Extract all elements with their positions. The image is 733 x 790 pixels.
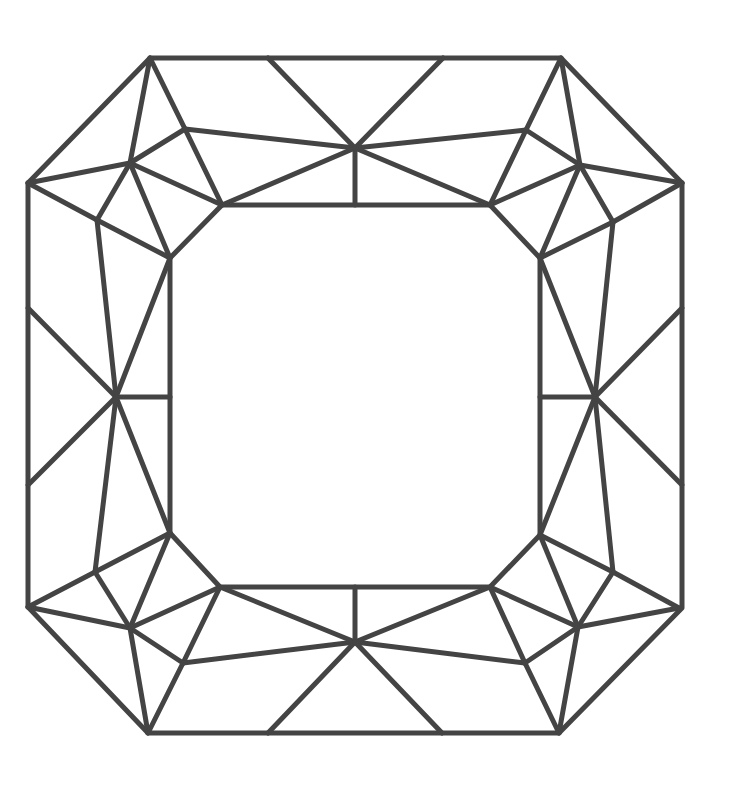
facet-edge [28,397,116,485]
facet-edge [28,308,116,397]
facet-edge [355,130,526,148]
facet-edge [183,642,355,663]
facet-edge [613,572,679,608]
gemstone-facet-diagram [0,0,733,790]
facet-edge [595,222,613,397]
facet-edge [355,587,490,642]
facet-edge [525,663,559,733]
facet-edge [595,397,682,485]
facet-edge [97,220,116,397]
facet-edge [268,58,355,148]
facet-edge [355,642,442,733]
facet-edge [148,663,183,733]
facet-edge [130,628,183,663]
facet-edge [97,163,130,220]
facet-edge [355,148,490,205]
facet-edge [580,165,613,222]
facet-edge [355,58,443,148]
facet-edge [222,148,355,205]
facet-edge [150,58,185,129]
facet-edge [595,397,613,572]
facet-edge [116,258,170,397]
facet-edge [578,572,613,627]
facet-edge [220,587,355,642]
facet-edge [595,308,682,397]
facet-edges [28,58,682,733]
facet-edge [613,183,682,222]
facet-edge [130,129,185,163]
facet-edge [540,397,595,535]
facet-edge [526,130,580,165]
facet-edge [28,183,97,220]
facet-edge [183,587,220,663]
facet-edge [185,129,355,148]
facet-edge [95,397,116,572]
facet-edge [355,642,525,663]
gem-table [170,205,540,587]
facet-edge [540,258,595,397]
facet-edge [116,397,170,533]
facet-edge [268,642,355,733]
facet-edge [526,58,561,130]
facet-edge [28,572,95,607]
facet-edge [185,129,222,205]
